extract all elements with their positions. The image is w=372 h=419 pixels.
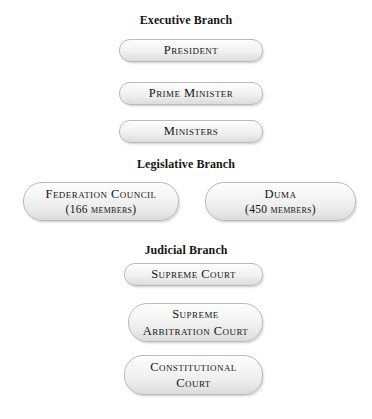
heading-judicial-branch: Judicial Branch	[0, 243, 372, 258]
node-federation-council[interactable]: Federation Council (166 members)	[23, 182, 179, 221]
node-federation-council-members: (166 members)	[66, 202, 137, 217]
node-duma-members: (450 members)	[245, 202, 316, 217]
node-president-label: President	[164, 42, 219, 59]
node-duma-label: Duma	[265, 186, 297, 203]
node-ministers[interactable]: Ministers	[119, 120, 263, 143]
heading-executive-branch: Executive Branch	[0, 13, 372, 28]
heading-legislative-branch: Legislative Branch	[0, 157, 372, 172]
government-branches-diagram: Executive Branch President Prime Ministe…	[0, 0, 372, 419]
node-supreme-arbitration-court[interactable]: Supreme Arbitration Court	[128, 303, 263, 342]
node-duma[interactable]: Duma (450 members)	[205, 182, 356, 221]
node-president[interactable]: President	[119, 39, 263, 62]
node-supreme-court-label: Supreme Court	[151, 266, 236, 283]
node-ministers-label: Ministers	[164, 123, 219, 140]
node-constitutional-court-label-line1: Constitutional	[150, 359, 237, 376]
node-supreme-arbitration-court-label-line1: Supreme	[172, 306, 219, 323]
node-constitutional-court-label-line2: Court	[176, 375, 211, 392]
node-federation-council-label: Federation Council	[45, 186, 156, 203]
node-constitutional-court[interactable]: Constitutional Court	[124, 355, 263, 395]
node-prime-minister-label: Prime Minister	[149, 85, 234, 102]
node-supreme-arbitration-court-label-line2: Arbitration Court	[143, 323, 249, 340]
node-prime-minister[interactable]: Prime Minister	[119, 82, 263, 105]
node-supreme-court[interactable]: Supreme Court	[124, 263, 263, 286]
